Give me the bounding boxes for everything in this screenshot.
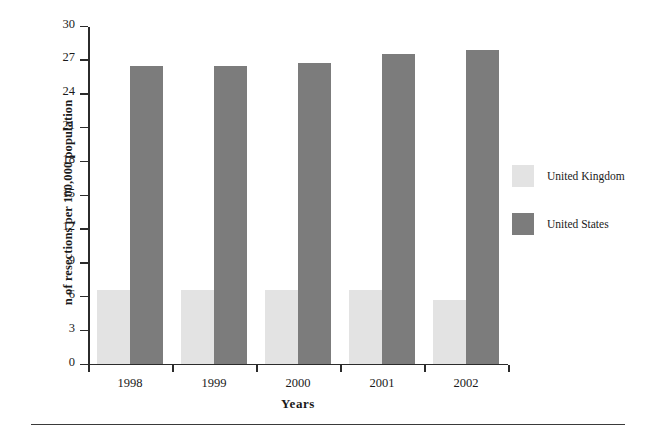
x-tick	[256, 365, 258, 372]
y-tick-label: 24	[63, 84, 76, 99]
y-tick: 12	[80, 228, 88, 230]
bar	[181, 290, 214, 363]
y-tick: 0	[80, 364, 88, 366]
y-tick-label: 3	[69, 321, 75, 336]
y-tick-label: 6	[69, 287, 75, 302]
x-axis-line	[88, 364, 508, 366]
x-tick-label: 1998	[88, 376, 172, 391]
chart-legend: United KingdomUnited States	[512, 165, 652, 261]
legend-swatch	[512, 213, 534, 235]
legend-label: United States	[547, 218, 609, 230]
x-tick-label: 1999	[172, 376, 256, 391]
bar	[349, 290, 382, 363]
legend-item: United States	[512, 213, 652, 235]
y-tick-label: 30	[63, 17, 76, 32]
bar	[265, 290, 298, 363]
y-tick-label: 21	[63, 118, 76, 133]
bar	[130, 66, 163, 363]
y-tick-label: 12	[63, 219, 76, 234]
x-tick	[508, 365, 510, 372]
x-axis-title: Years	[88, 396, 508, 412]
bar	[466, 50, 499, 363]
y-tick-label: 15	[63, 186, 76, 201]
y-tick-label: 18	[63, 152, 76, 167]
bar	[382, 54, 415, 364]
x-tick-label: 2002	[424, 376, 508, 391]
legend-label: United Kingdom	[547, 170, 625, 182]
y-tick: 18	[80, 161, 88, 163]
x-tick	[172, 365, 174, 372]
y-tick: 15	[80, 195, 88, 197]
y-tick: 3	[80, 330, 88, 332]
y-tick: 21	[80, 127, 88, 129]
bar	[97, 290, 130, 363]
x-tick	[340, 365, 342, 372]
y-tick: 30	[80, 26, 88, 28]
y-tick: 27	[80, 59, 88, 61]
footer-divider	[31, 424, 625, 425]
bar	[433, 300, 466, 363]
y-tick-label: 27	[63, 50, 76, 65]
legend-swatch	[512, 165, 534, 187]
bar	[214, 66, 247, 363]
plot-area: 036912151821242730 19981999200020012002	[88, 27, 508, 365]
y-tick: 6	[80, 296, 88, 298]
x-tick-label: 2000	[256, 376, 340, 391]
x-tick	[88, 365, 90, 372]
x-tick-label: 2001	[340, 376, 424, 391]
legend-item: United Kingdom	[512, 165, 652, 187]
bar-chart-figure: n of resections per 100,000 population 0…	[0, 0, 653, 433]
y-axis-line	[88, 27, 90, 365]
y-tick: 9	[80, 262, 88, 264]
y-tick: 24	[80, 93, 88, 95]
x-tick	[424, 365, 426, 372]
y-tick-label: 9	[69, 253, 75, 268]
y-tick-label: 0	[69, 355, 75, 370]
bar	[298, 63, 331, 364]
